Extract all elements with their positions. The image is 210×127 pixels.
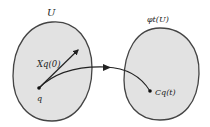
label-q: q (37, 94, 42, 103)
region-u (13, 22, 92, 121)
region-phi-t-u (124, 28, 199, 120)
label-u: U (47, 7, 56, 18)
curve-arrowhead-icon (103, 64, 111, 71)
label-phi-t-u: φt(U) (147, 15, 169, 24)
point-cq-t (148, 89, 152, 93)
label-x-q-0: Xq(0) (36, 59, 61, 69)
label-cq-t: Cq(t) (155, 88, 176, 97)
point-q (37, 86, 41, 90)
flow-diagram: U φt(U) Xq(0) q Cq(t) (0, 0, 210, 127)
